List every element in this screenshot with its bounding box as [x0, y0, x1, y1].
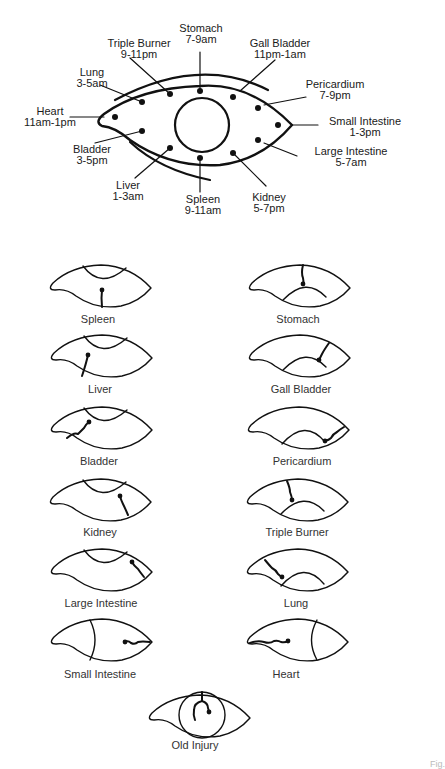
eye-bladder — [51, 407, 152, 449]
eye-large-intestine — [51, 549, 152, 591]
eye-kidney — [50, 479, 151, 521]
eye-stomach — [249, 265, 350, 307]
caption-stomach: Stomach — [276, 313, 319, 325]
label-triple-burner: Triple Burner9-11pm — [107, 38, 170, 60]
label-large-intestine: Large Intestine5-7am — [315, 146, 388, 168]
eye-liver — [51, 335, 152, 377]
iris-circle — [175, 98, 229, 152]
eye-triple-burner — [247, 479, 348, 521]
caption-lung: Lung — [284, 597, 308, 609]
eye-lung — [247, 549, 348, 591]
label-spleen: Spleen9-11am — [185, 194, 221, 216]
label-lung: Lung3-5am — [76, 67, 107, 89]
caption-bladder: Bladder — [80, 455, 118, 467]
label-heart: Heart11am-1pm — [24, 106, 76, 128]
caption-spleen: Spleen — [81, 313, 115, 325]
eye-heart — [247, 619, 348, 661]
label-bladder: Bladder3-5pm — [73, 144, 111, 166]
caption-liver: Liver — [88, 383, 112, 395]
eye-gall-bladder — [249, 335, 350, 377]
caption-large-intestine: Large Intestine — [65, 597, 138, 609]
caption-heart: Heart — [273, 668, 300, 680]
label-pericardium: Pericardium7-9pm — [306, 79, 365, 101]
caption-gall-bladder: Gall Bladder — [271, 383, 332, 395]
eye-outline — [98, 86, 292, 166]
label-stomach: Stomach7-9am — [179, 23, 222, 45]
caption-small-intestine: Small Intestine — [64, 668, 136, 680]
caption-pericardium: Pericardium — [273, 455, 332, 467]
caption-kidney: Kidney — [83, 526, 117, 538]
caption-old-injury: Old Injury — [171, 739, 218, 751]
eye-pericardium — [248, 407, 349, 449]
label-liver: Liver1-3am — [112, 180, 143, 202]
eye-small-intestine — [51, 619, 152, 661]
eye-old-injury — [149, 692, 250, 738]
figure-caption: Fig. — [430, 759, 445, 769]
caption-triple-burner: Triple Burner — [265, 526, 328, 538]
label-small-intestine: Small Intestine1-3pm — [329, 116, 401, 138]
label-gall-bladder: Gall Bladder11pm-1am — [250, 38, 311, 60]
eye-spleen — [50, 265, 151, 307]
label-kidney: Kidney5-7pm — [252, 192, 286, 214]
